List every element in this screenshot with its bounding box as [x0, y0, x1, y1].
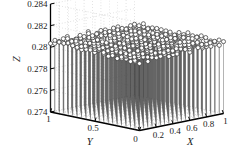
x-tick-label: 0.4: [169, 126, 181, 136]
z-tick-label: 0.276: [27, 86, 48, 96]
z-tick-label: 0.278: [27, 64, 48, 74]
z-axis-label: Z: [11, 56, 22, 62]
y-tick-label: 0: [133, 134, 138, 144]
y-axis-label: Y: [87, 136, 94, 147]
figure-canvas: 0.2740.2760.2780.280.2820.28400.510.20.4…: [0, 0, 246, 168]
z-tick-label: 0.282: [27, 21, 47, 31]
x-tick-label: 0.6: [186, 123, 198, 133]
x-tick-label: 0.2: [153, 130, 164, 140]
y-tick-label: 1: [46, 114, 51, 124]
x-axis-label: X: [186, 136, 194, 147]
x-tick-label: 0.8: [203, 119, 215, 129]
x-tick-label: 1: [223, 116, 228, 126]
z-tick-label: 0.284: [27, 0, 48, 9]
z-tick-label: 0.28: [32, 42, 48, 52]
z-tick-label: 0.274: [27, 107, 48, 117]
plot-3d-stem: 0.2740.2760.2780.280.2820.28400.510.20.4…: [0, 0, 246, 168]
y-tick-label: 0.5: [87, 123, 99, 133]
